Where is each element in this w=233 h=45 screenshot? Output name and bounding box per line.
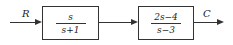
output-arrowhead-icon [217,19,224,25]
input-arrowhead-icon [35,19,42,25]
input-signal-line [10,22,36,23]
block-1-transfer-function: s s+1 [56,12,86,35]
block-2: 2s−4 s−3 [138,6,194,40]
block-2-numerator: 2s−4 [152,12,180,22]
connecting-signal-line [99,22,132,23]
block-1: s s+1 [42,6,99,40]
output-label: C [203,8,211,19]
fraction-bar [151,23,181,24]
block-2-transfer-function: 2s−4 s−3 [151,12,181,35]
fraction-bar [56,23,86,24]
block-1-numerator: s [66,12,75,22]
block-1-denominator: s+1 [60,25,82,35]
input-label: R [22,8,30,19]
block-2-denominator: s−3 [155,25,177,35]
output-signal-line [194,22,218,23]
connecting-arrowhead-icon [131,19,138,25]
